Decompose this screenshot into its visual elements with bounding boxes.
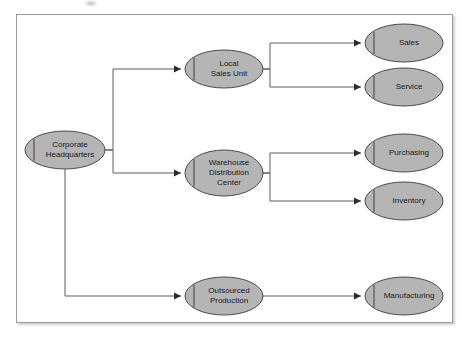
edge-line: [65, 169, 181, 296]
arrow-head-icon: [174, 169, 181, 176]
node-label-line: Outsourced: [208, 286, 249, 295]
node-label-line: Corporate: [52, 140, 88, 149]
edge-line: [263, 153, 361, 173]
arrow-head-icon: [174, 65, 181, 72]
arrow-head-icon: [354, 39, 361, 46]
edge-outsourced-production-to-manufacturing: [263, 292, 361, 299]
node-manufacturing[interactable]: Manufacturing: [365, 277, 443, 315]
node-label-line: Sales: [399, 38, 419, 47]
node-label: Sales: [399, 38, 419, 47]
node-corporate-headquarters[interactable]: CorporateHeadquarters: [25, 131, 105, 169]
node-purchasing[interactable]: Purchasing: [365, 134, 443, 172]
node-label-line: Purchasing: [389, 148, 429, 157]
node-warehouse-distribution-center[interactable]: WarehouseDistributionCenter: [185, 150, 263, 196]
node-outsourced-production[interactable]: OutsourcedProduction: [185, 277, 263, 315]
edge-warehouse-to-purchasing: [263, 149, 361, 173]
edge-local-sales-unit-to-sales: [263, 39, 361, 69]
node-label-line: Sales Unit: [211, 69, 248, 78]
edge-line: [263, 43, 361, 69]
node-label: CorporateHeadquarters: [46, 140, 94, 159]
node-label-line: Warehouse: [209, 158, 250, 167]
arrow-head-icon: [174, 292, 181, 299]
node-label-line: Inventory: [393, 196, 426, 205]
node-label: OutsourcedProduction: [208, 286, 249, 305]
edge-local-sales-unit-to-service: [263, 69, 361, 91]
node-sales[interactable]: Sales: [365, 24, 443, 62]
edge-line: [105, 150, 181, 173]
arrow-head-icon: [354, 292, 361, 299]
edge-line: [263, 69, 361, 87]
node-label: Inventory: [393, 196, 426, 205]
edge-line: [105, 69, 181, 150]
node-label: Manufacturing: [384, 291, 435, 300]
edge-hq-to-warehouse: [105, 150, 181, 177]
diagram-stage: CorporateHeadquartersLocalSales UnitWare…: [0, 0, 469, 337]
arrow-head-icon: [354, 83, 361, 90]
node-label: Service: [396, 82, 423, 91]
node-service[interactable]: Service: [365, 68, 443, 106]
node-local-sales-unit[interactable]: LocalSales Unit: [185, 50, 263, 88]
arrow-head-icon: [354, 149, 361, 156]
nodes-layer: CorporateHeadquartersLocalSales UnitWare…: [25, 24, 443, 315]
node-label-line: Headquarters: [46, 150, 94, 159]
node-label-line: Center: [217, 178, 241, 187]
node-label-line: Production: [210, 296, 248, 305]
edge-hq-to-outsourced-production: [65, 169, 181, 300]
node-label-line: Manufacturing: [384, 291, 435, 300]
edge-hq-to-local-sales-unit: [105, 65, 181, 150]
arrow-head-icon: [354, 197, 361, 204]
node-label: Purchasing: [389, 148, 429, 157]
edge-line: [263, 173, 361, 201]
edge-warehouse-to-inventory: [263, 173, 361, 205]
node-label-line: Local: [219, 59, 238, 68]
node-label-line: Distribution: [209, 168, 249, 177]
topology-graph: CorporateHeadquartersLocalSales UnitWare…: [0, 0, 469, 337]
node-inventory[interactable]: Inventory: [365, 182, 443, 220]
node-label-line: Service: [396, 82, 423, 91]
